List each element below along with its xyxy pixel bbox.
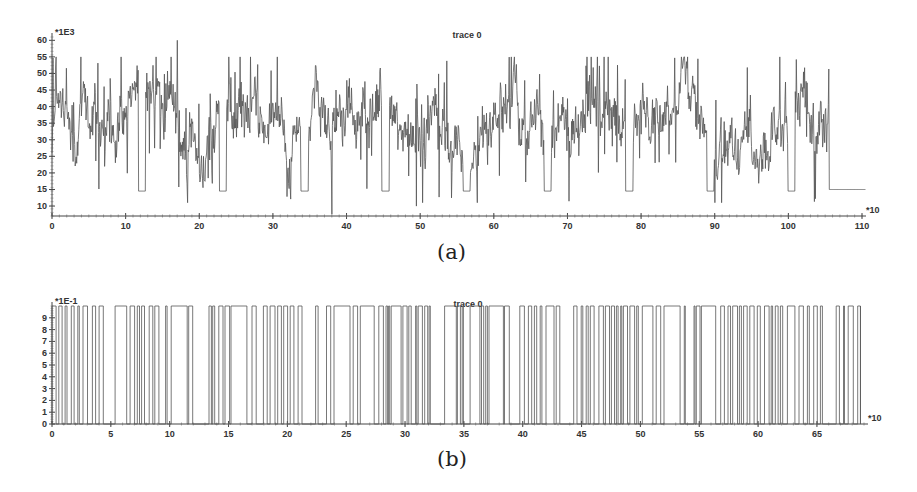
x-tick-label: 60	[753, 429, 763, 439]
x-tick-label: 90	[710, 221, 720, 231]
x-tick-label: 45	[577, 429, 587, 439]
chart-b-plot: 012345678905101520253035404550556065*1E-…	[0, 290, 917, 445]
x-tick-label: 5	[108, 429, 113, 439]
y-tick-label: 40	[37, 102, 47, 112]
x-tick-label: 110	[855, 221, 870, 231]
y-tick-label: 45	[37, 85, 47, 95]
x-tick-label: 20	[282, 429, 292, 439]
x-tick-label: 70	[562, 221, 572, 231]
trace-line	[52, 306, 861, 424]
y-tick-label: 6	[42, 348, 47, 358]
x-tick-label: 50	[415, 221, 425, 231]
chart-a-plot: 1015202530354045505560010203040506070809…	[0, 0, 917, 240]
y-tick-label: 5	[42, 360, 47, 370]
x-tick-label: 15	[224, 429, 234, 439]
x-tick-label: 10	[165, 429, 175, 439]
y-tick-label: 20	[37, 168, 47, 178]
y-tick-label: 50	[37, 68, 47, 78]
x-tick-label: 65	[812, 429, 822, 439]
y-tick-label: 3	[42, 384, 47, 394]
chart-title: trace 0	[453, 299, 482, 309]
y-tick-label: 8	[42, 325, 47, 335]
x-tick-label: 30	[400, 429, 410, 439]
y-tick-label: 1	[42, 407, 47, 417]
x-tick-label: 30	[268, 221, 278, 231]
y-tick-label: 7	[42, 336, 47, 346]
y-tick-label: 60	[37, 35, 47, 45]
y-tick-label: 4	[42, 372, 47, 382]
x-multiplier-label: *10	[868, 413, 882, 423]
x-tick-label: 55	[694, 429, 704, 439]
y-tick-label: 55	[37, 52, 47, 62]
x-tick-label: 100	[781, 221, 796, 231]
y-tick-label: 30	[37, 135, 47, 145]
y-tick-label: 10	[37, 201, 47, 211]
x-tick-label: 25	[341, 429, 351, 439]
x-tick-label: 35	[459, 429, 469, 439]
chart-title: trace 0	[452, 30, 481, 40]
y-tick-label: 25	[37, 151, 47, 161]
y-tick-label: 15	[37, 184, 47, 194]
x-tick-label: 0	[49, 429, 54, 439]
trace-line	[52, 40, 865, 214]
x-tick-label: 50	[635, 429, 645, 439]
y-multiplier-label: *1E-1	[55, 296, 78, 306]
y-tick-label: 35	[37, 118, 47, 128]
chart-a-caption: (a)	[437, 240, 466, 264]
x-tick-label: 80	[636, 221, 646, 231]
x-tick-label: 60	[489, 221, 499, 231]
x-multiplier-label: *10	[866, 205, 880, 215]
x-tick-label: 40	[342, 221, 352, 231]
y-multiplier-label: *1E3	[55, 27, 75, 37]
x-tick-label: 10	[121, 221, 131, 231]
x-tick-label: 20	[194, 221, 204, 231]
y-tick-label: 0	[42, 419, 47, 429]
x-tick-label: 40	[518, 429, 528, 439]
x-tick-label: 0	[49, 221, 54, 231]
chart-b-caption: (b)	[437, 447, 467, 471]
y-tick-label: 9	[42, 313, 47, 323]
chart-a-container: 1015202530354045505560010203040506070809…	[0, 0, 917, 270]
y-tick-label: 2	[42, 395, 47, 405]
axes: 012345678905101520253035404550556065*1E-…	[42, 296, 882, 439]
